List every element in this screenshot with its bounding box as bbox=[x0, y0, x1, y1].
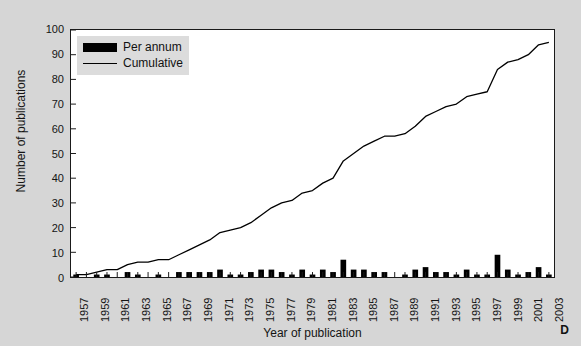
y-tick-label-10: 10 bbox=[52, 247, 64, 259]
x-tick-label-1957: 1957 bbox=[79, 298, 90, 322]
legend-label-cumulative: Cumulative bbox=[123, 56, 183, 70]
y-tick-label-80: 80 bbox=[52, 73, 64, 85]
x-tick-label-1995: 1995 bbox=[471, 298, 482, 322]
x-tick-label-2001: 2001 bbox=[533, 298, 544, 322]
x-tick-label-1997: 1997 bbox=[492, 298, 503, 322]
x-tick-label-1993: 1993 bbox=[451, 298, 462, 322]
figure-panel: Number of publications 01020304050607080… bbox=[0, 0, 581, 346]
legend-bar-swatch-icon bbox=[83, 43, 117, 52]
legend-line-swatch-icon bbox=[83, 59, 117, 68]
y-axis-title: Number of publications bbox=[14, 51, 28, 211]
figure-inner: Number of publications 01020304050607080… bbox=[4, 4, 577, 342]
x-tick-label-1969: 1969 bbox=[203, 298, 214, 322]
x-tick-label-1959: 1959 bbox=[100, 298, 111, 322]
x-tick-label-1985: 1985 bbox=[368, 298, 379, 322]
y-tick-label-30: 30 bbox=[52, 197, 64, 209]
x-tick-label-1975: 1975 bbox=[265, 298, 276, 322]
x-tick-label-1979: 1979 bbox=[306, 298, 317, 322]
y-axis-tick-labels: 0102030405060708090100 bbox=[34, 23, 64, 284]
y-tick-label-100: 100 bbox=[46, 23, 64, 35]
x-tick-label-1973: 1973 bbox=[244, 298, 255, 322]
y-tick-label-0: 0 bbox=[58, 272, 64, 284]
y-tick-label-60: 60 bbox=[52, 123, 64, 135]
legend-entry-per-annum: Per annum bbox=[83, 39, 183, 55]
x-axis-tick-labels: 1957195919611963196519671969197119731975… bbox=[70, 282, 555, 328]
x-axis-title: Year of publication bbox=[70, 326, 555, 340]
y-tick-label-70: 70 bbox=[52, 98, 64, 110]
cumulative-line bbox=[76, 42, 549, 274]
x-tick-label-1977: 1977 bbox=[286, 298, 297, 322]
y-tick-label-50: 50 bbox=[52, 148, 64, 160]
y-tick-label-90: 90 bbox=[52, 48, 64, 60]
x-tick-label-1983: 1983 bbox=[348, 298, 359, 322]
x-tick-label-1991: 1991 bbox=[430, 298, 441, 322]
y-tick-label-40: 40 bbox=[52, 172, 64, 184]
y-tick-label-20: 20 bbox=[52, 222, 64, 234]
legend-entry-cumulative: Cumulative bbox=[83, 55, 183, 71]
x-tick-label-1963: 1963 bbox=[141, 298, 152, 322]
x-tick-label-1989: 1989 bbox=[409, 298, 420, 322]
legend-label-per-annum: Per annum bbox=[123, 40, 182, 54]
x-tick-label-1967: 1967 bbox=[182, 298, 193, 322]
x-tick-label-2003: 2003 bbox=[554, 298, 565, 322]
chart-legend: Per annum Cumulative bbox=[77, 36, 189, 75]
x-tick-label-1987: 1987 bbox=[389, 298, 400, 322]
x-tick-label-1965: 1965 bbox=[162, 298, 173, 322]
x-tick-label-1971: 1971 bbox=[224, 298, 235, 322]
x-tick-label-1961: 1961 bbox=[120, 298, 131, 322]
x-tick-label-1981: 1981 bbox=[327, 298, 338, 322]
panel-letter: D bbox=[560, 323, 569, 337]
x-tick-label-1999: 1999 bbox=[513, 298, 524, 322]
